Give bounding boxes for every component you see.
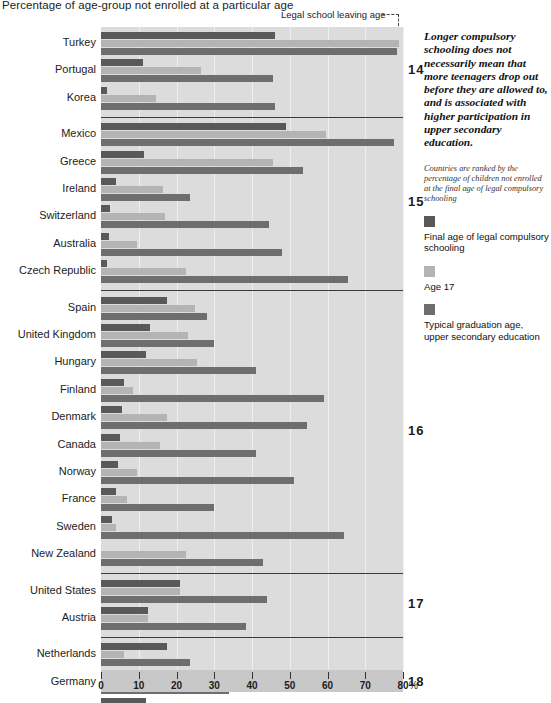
legend-label: Typical graduation age, upper secondary … bbox=[424, 319, 550, 342]
group-separator bbox=[101, 637, 403, 638]
bar bbox=[101, 698, 146, 703]
bar bbox=[101, 469, 137, 476]
axis-tick bbox=[365, 672, 366, 679]
bar bbox=[101, 305, 195, 312]
ranking-note: Countries are ranked by the percentage o… bbox=[424, 164, 550, 204]
bar bbox=[101, 496, 127, 503]
bar bbox=[101, 313, 207, 320]
country-label: Spain bbox=[0, 301, 96, 313]
bar bbox=[101, 159, 273, 166]
bar bbox=[101, 67, 201, 74]
bar bbox=[101, 276, 348, 283]
bar bbox=[101, 332, 188, 339]
axis-tick bbox=[177, 672, 178, 679]
bar bbox=[101, 213, 165, 220]
leaving-age-dash-line bbox=[382, 14, 399, 15]
bar bbox=[101, 659, 190, 666]
bar bbox=[101, 139, 394, 146]
country-label: Czech Republic bbox=[0, 264, 96, 276]
country-label: Greece bbox=[0, 155, 96, 167]
headline-note: Longer compulsory schooling does not nec… bbox=[424, 30, 550, 150]
country-label: Denmark bbox=[0, 410, 96, 422]
axis-tick bbox=[403, 672, 404, 679]
x-axis-unit: % bbox=[409, 680, 418, 691]
bar bbox=[101, 450, 256, 457]
bar bbox=[101, 414, 167, 421]
bar bbox=[101, 580, 180, 587]
legend-item: Age 17 bbox=[424, 266, 550, 293]
bar bbox=[101, 260, 107, 267]
axis-tick-label: 10 bbox=[133, 680, 144, 691]
bar bbox=[101, 167, 303, 174]
bar bbox=[101, 324, 150, 331]
legend-swatch-icon bbox=[424, 304, 435, 315]
axis-tick-label: 0 bbox=[98, 680, 104, 691]
bar bbox=[101, 406, 122, 413]
country-label: Mexico bbox=[0, 127, 96, 139]
leaving-age-marker: 16 bbox=[408, 423, 424, 438]
bar bbox=[101, 504, 214, 511]
bar bbox=[101, 48, 397, 55]
legend-item: Typical graduation age, upper secondary … bbox=[424, 304, 550, 342]
bar bbox=[101, 532, 344, 539]
country-label: Ireland bbox=[0, 182, 96, 194]
axis-tick-label: 30 bbox=[209, 680, 220, 691]
bar bbox=[101, 131, 326, 138]
legend-label: Age 17 bbox=[424, 281, 550, 293]
bar bbox=[101, 551, 186, 558]
bar bbox=[101, 59, 143, 66]
sidebar: Longer compulsory schooling does not nec… bbox=[424, 30, 550, 343]
bar bbox=[101, 488, 116, 495]
group-separator bbox=[101, 117, 403, 118]
bar bbox=[101, 178, 116, 185]
bar bbox=[101, 395, 324, 402]
country-label: Germany bbox=[0, 675, 96, 687]
bar bbox=[101, 123, 286, 130]
bar bbox=[101, 588, 180, 595]
bar bbox=[101, 516, 112, 523]
axis-tick bbox=[101, 672, 102, 679]
legend-swatch-icon bbox=[424, 216, 435, 227]
bar bbox=[101, 422, 307, 429]
bar bbox=[101, 651, 124, 658]
country-label: United States bbox=[0, 584, 96, 596]
bar bbox=[101, 186, 163, 193]
bar bbox=[101, 387, 133, 394]
axis-tick-label: 70 bbox=[360, 680, 371, 691]
leaving-age-marker: 17 bbox=[408, 596, 424, 611]
country-label: Sweden bbox=[0, 520, 96, 532]
country-label: Austria bbox=[0, 611, 96, 623]
legend-swatch-icon bbox=[424, 266, 435, 277]
bar bbox=[101, 87, 107, 94]
axis-tick-label: 40 bbox=[246, 680, 257, 691]
country-label: Korea bbox=[0, 91, 96, 103]
bar bbox=[101, 524, 116, 531]
country-label: Hungary bbox=[0, 355, 96, 367]
country-label: Netherlands bbox=[0, 647, 96, 659]
bar bbox=[101, 359, 197, 366]
leaving-age-callout-label: Legal school leaving age bbox=[281, 9, 386, 20]
legend: Final age of legal compulsory schoolingA… bbox=[424, 216, 550, 343]
country-label: Switzerland bbox=[0, 209, 96, 221]
legend-label: Final age of legal compulsory schooling bbox=[424, 231, 550, 254]
axis-tick bbox=[139, 672, 140, 679]
bar bbox=[101, 194, 190, 201]
bar bbox=[101, 268, 186, 275]
bar bbox=[101, 559, 263, 566]
gridline bbox=[403, 27, 404, 670]
bar bbox=[101, 241, 137, 248]
bar bbox=[101, 340, 214, 347]
bar bbox=[101, 205, 110, 212]
country-label: Portugal bbox=[0, 63, 96, 75]
bar bbox=[101, 461, 118, 468]
group-separator bbox=[101, 573, 403, 574]
bar bbox=[101, 607, 148, 614]
bar bbox=[101, 233, 109, 240]
country-label: France bbox=[0, 492, 96, 504]
country-label: United Kingdom bbox=[0, 328, 96, 340]
country-label: Turkey bbox=[0, 36, 96, 48]
axis-tick-label: 20 bbox=[171, 680, 182, 691]
axis-tick bbox=[328, 672, 329, 679]
page-title: Percentage of age-group not enrolled at … bbox=[2, 0, 293, 11]
bar bbox=[101, 297, 167, 304]
